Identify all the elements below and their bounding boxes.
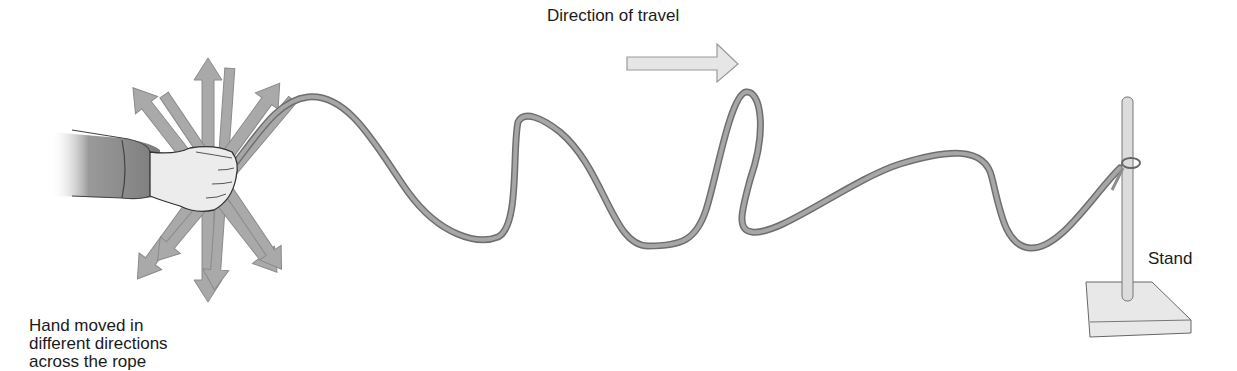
hand-motion-label: Hand moved in different directions acros… [29, 317, 168, 371]
hand-label-line-2: different directions [29, 335, 168, 353]
rope [236, 92, 1120, 248]
direction-of-travel-label: Direction of travel [547, 6, 679, 26]
stand-label: Stand [1148, 249, 1192, 269]
direction-arrow-icon [627, 44, 738, 82]
rope-wave-diagram [0, 0, 1237, 371]
hand-label-line-1: Hand moved in [29, 317, 168, 335]
hand-label-line-3: across the rope [29, 353, 168, 371]
stand-icon [1086, 97, 1191, 337]
